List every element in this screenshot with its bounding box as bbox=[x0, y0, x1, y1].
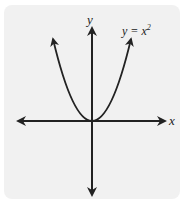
parabola-graph: y x y = x2 bbox=[0, 0, 184, 202]
curve-label: y = x2 bbox=[121, 23, 151, 38]
x-axis-label: x bbox=[168, 113, 175, 128]
y-axis-label: y bbox=[85, 12, 93, 27]
curve-label-exponent: 2 bbox=[147, 23, 151, 32]
curve-label-base: y = x bbox=[121, 24, 147, 38]
